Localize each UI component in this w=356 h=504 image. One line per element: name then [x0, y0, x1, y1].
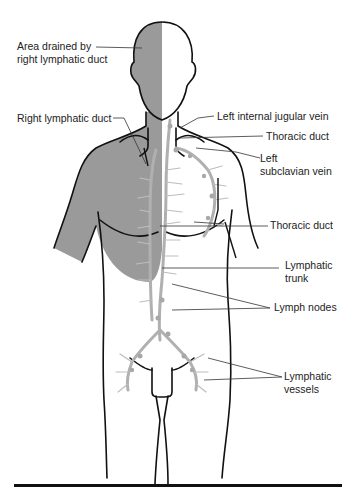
label-lymph-nodes: Lymph nodes	[274, 301, 337, 314]
leader-left-subclavian	[196, 148, 260, 158]
label-right-lymphatic-duct: Right lymphatic duct	[17, 112, 112, 125]
leader-left-internal-jugular	[180, 116, 214, 128]
leader-lymph-nodes-2	[172, 308, 270, 310]
label-left-subclavian-line1: Left	[260, 152, 332, 165]
label-lymphatic-vessels: Lymphatic vessels	[284, 370, 331, 395]
label-lymphatic-trunk: Lymphatic trunk	[285, 259, 332, 284]
leader-lymph-nodes-1	[172, 284, 270, 308]
label-lymphatic-vessels-line2: vessels	[284, 383, 331, 396]
leader-lymphatic-vessels-2	[204, 377, 282, 380]
label-area-drained-line2: right lymphatic duct	[17, 53, 107, 66]
label-thoracic-duct-upper: Thoracic duct	[266, 130, 329, 143]
label-left-subclavian-vein: Left subclavian vein	[260, 152, 332, 177]
bottom-divider	[14, 484, 342, 487]
label-lymphatic-trunk-line2: trunk	[285, 272, 332, 285]
label-area-drained-line1: Area drained by	[17, 40, 107, 53]
label-lymphatic-vessels-line1: Lymphatic	[284, 370, 331, 383]
label-left-internal-jugular-vein: Left internal jugular vein	[217, 110, 329, 123]
lymphatic-diagram	[0, 0, 356, 504]
label-left-subclavian-line2: subclavian vein	[260, 165, 332, 178]
label-thoracic-duct-lower: Thoracic duct	[270, 219, 333, 232]
leader-lymphatic-vessels-1	[208, 358, 282, 377]
label-lymphatic-trunk-line1: Lymphatic	[285, 259, 332, 272]
label-area-drained: Area drained by right lymphatic duct	[17, 40, 107, 65]
pelvic-right	[127, 330, 160, 390]
